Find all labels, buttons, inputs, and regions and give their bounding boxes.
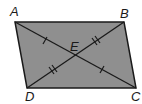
parallelogram-diagram: A B C D E [0,0,142,104]
intersection-label-e: E [70,39,79,54]
vertex-label-b: B [120,6,129,21]
vertex-label-c: C [131,89,141,104]
vertex-label-d: D [25,89,34,104]
vertex-label-a: A [9,4,19,19]
